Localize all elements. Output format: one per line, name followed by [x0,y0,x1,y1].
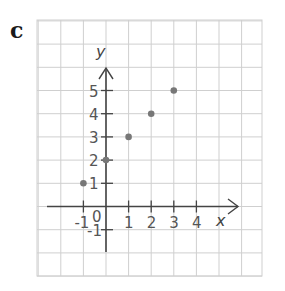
data-point [80,180,87,187]
data-point [148,110,155,117]
grid [37,20,262,276]
data-point [103,157,110,164]
x-tick-label: 2 [147,214,157,232]
y-tick-label: 1 [89,175,99,193]
origin-label: 0 [92,208,102,226]
y-tick-label: 5 [89,83,99,101]
x-tick-label: 4 [192,214,202,232]
x-axis-label: x [215,211,226,230]
data-point [125,134,132,141]
y-axis-label: y [95,42,106,61]
y-tick-label: 3 [89,129,99,147]
panel-label: c [10,17,23,43]
x-tick-label: 1 [124,214,134,232]
y-tick-label: 4 [89,106,99,124]
x-tick-label: 3 [169,214,179,232]
coordinate-plane: c -1123454321-1 x y 0 [0,0,285,291]
y-tick-label: 2 [89,152,99,170]
grid-border [37,20,262,276]
data-point [171,87,178,94]
